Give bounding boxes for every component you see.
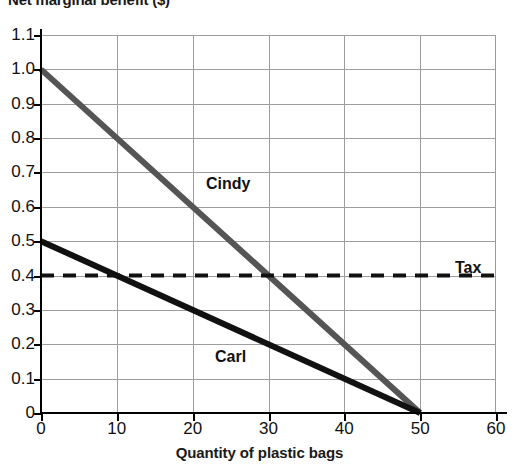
y-axis-tick-label: 1.0 xyxy=(1,59,35,79)
series-label-carl: Carl xyxy=(215,348,246,366)
series-group xyxy=(41,69,496,413)
y-axis-tick xyxy=(34,172,42,174)
y-axis-tick-label: 0.8 xyxy=(1,128,35,148)
x-axis-tick-label: 20 xyxy=(183,419,202,439)
x-axis-tick-label: 10 xyxy=(107,419,126,439)
y-axis-tick xyxy=(34,69,42,71)
x-axis-title: Quantity of plastic bags xyxy=(0,444,519,461)
y-axis-tick xyxy=(34,35,42,37)
y-axis-tick-label: 1.1 xyxy=(1,25,35,45)
y-axis-tick-label: 0.6 xyxy=(1,197,35,217)
y-axis-tick-label: 0.4 xyxy=(1,266,35,286)
series-layer xyxy=(41,35,496,413)
y-axis-tick xyxy=(34,241,42,243)
y-axis-tick-label: 0.9 xyxy=(1,94,35,114)
x-axis-line xyxy=(41,412,507,414)
series-label-tax: Tax xyxy=(455,259,481,277)
x-axis-tick-label: 50 xyxy=(411,419,430,439)
x-axis-tick-label: 30 xyxy=(259,419,278,439)
y-axis-line xyxy=(40,29,42,415)
y-axis-tick-label: 0.3 xyxy=(1,300,35,320)
x-axis-tick-label: 0 xyxy=(36,419,45,439)
series-label-cindy: Cindy xyxy=(206,175,250,193)
y-axis-tick xyxy=(34,138,42,140)
y-axis-tick-label: 0.1 xyxy=(1,369,35,389)
y-axis-tick xyxy=(34,276,42,278)
y-axis-tick xyxy=(34,344,42,346)
x-axis-tick-label: 60 xyxy=(487,419,506,439)
x-axis-tick-label: 40 xyxy=(335,419,354,439)
series-line-carl xyxy=(41,241,420,413)
y-axis-tick-label: 0 xyxy=(1,403,35,423)
y-axis-tick xyxy=(34,207,42,209)
y-axis-tick xyxy=(34,310,42,312)
y-axis-tick-label: 0.7 xyxy=(1,162,35,182)
y-axis-tick xyxy=(34,379,42,381)
y-axis-tick-labels: 00.10.20.30.40.50.60.70.80.91.01.1 xyxy=(0,0,35,469)
y-axis-tick-label: 0.5 xyxy=(1,231,35,251)
y-axis-tick xyxy=(34,104,42,106)
y-axis-tick-label: 0.2 xyxy=(1,334,35,354)
